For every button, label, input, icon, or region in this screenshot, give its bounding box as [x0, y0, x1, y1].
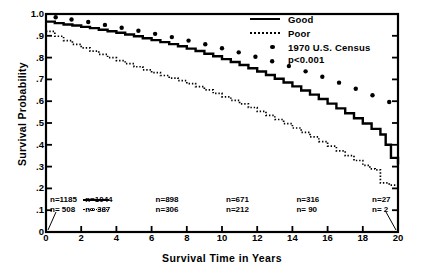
legend-item-poor: Poor [248, 26, 370, 40]
legend-label-poor: Poor [288, 28, 310, 39]
x-axis-title: Survival Time in Years [46, 252, 398, 264]
legend-item-good: Good [248, 12, 370, 26]
x-tick-label: 18 [351, 232, 375, 243]
x-tick-label: 14 [280, 232, 304, 243]
dot-marker-key-icon [248, 41, 282, 53]
x-tick-label: 6 [140, 232, 164, 243]
solid-line-key-icon [248, 13, 282, 25]
x-tick-label: 2 [69, 232, 93, 243]
x-tick-label: 16 [316, 232, 340, 243]
x-tick-label: 8 [175, 232, 199, 243]
legend: Good Poor 1970 U.S. Census p<0.001 [248, 12, 370, 65]
x-tick-label: 0 [34, 232, 58, 243]
legend-label-census: 1970 U.S. Census [288, 42, 370, 53]
x-tick-label: 12 [245, 232, 269, 243]
x-axis-tick-labels: 02468101214161820 [0, 232, 435, 246]
p-value-annotation: p<0.001 [288, 54, 370, 65]
x-tick-label: 10 [210, 232, 234, 243]
legend-item-census: 1970 U.S. Census [248, 40, 370, 54]
legend-label-good: Good [288, 14, 314, 25]
survival-chart: Survival Probability 0.1.2.3.4.5.6.7.8.9… [0, 0, 435, 273]
dotted-line-key-icon [248, 27, 282, 39]
x-tick-label: 20 [386, 232, 410, 243]
x-tick-label: 4 [104, 232, 128, 243]
